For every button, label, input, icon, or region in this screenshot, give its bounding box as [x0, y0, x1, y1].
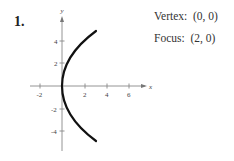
focus-label: Focus: [154, 32, 185, 44]
vertex-value: (0, 0) [193, 10, 218, 22]
y-tick-label: -4 [51, 128, 57, 136]
x-tick-label: -2 [37, 91, 43, 99]
y-tick-label: 4 [54, 38, 58, 46]
vertex-label: Vertex: [154, 10, 187, 22]
y-axis-arrow-icon [60, 16, 64, 22]
x-tick-label: 6 [127, 91, 131, 99]
focus-value: (2, 0) [190, 32, 215, 44]
x-tick-label: 4 [105, 91, 109, 99]
x-tick-label: 2 [83, 91, 87, 99]
vertex-info: Vertex: (0, 0) [154, 10, 218, 22]
parabola-graph: -2 2 4 6 4 2 -2 -4 x y [0, 0, 234, 161]
y-tick-label: 2 [54, 60, 58, 68]
x-axis-label: x [148, 83, 153, 91]
y-tick-label: -2 [51, 106, 57, 114]
x-axis-arrow-icon [141, 84, 147, 88]
y-axis-label: y [60, 7, 65, 15]
focus-info: Focus: (2, 0) [154, 32, 215, 44]
